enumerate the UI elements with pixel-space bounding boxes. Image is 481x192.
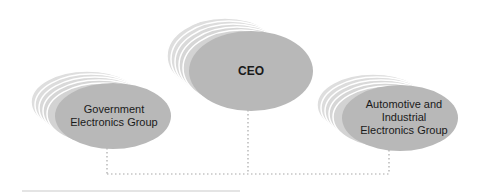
bottom-divider: [22, 190, 240, 192]
auto-label: Automotive and Industrial Electronics Gr…: [344, 98, 464, 138]
gov-label: Government Electronics Group: [58, 103, 170, 129]
org-chart-diagram: [0, 0, 481, 192]
gov-label-line-2: Electronics Group: [58, 116, 170, 129]
ceo-label: CEO: [201, 64, 301, 78]
gov-label-line-1: Government: [58, 103, 170, 116]
auto-label-line-1: Automotive and: [344, 98, 464, 111]
auto-label-line-2: Industrial: [344, 111, 464, 124]
auto-label-line-3: Electronics Group: [344, 124, 464, 137]
ceo-label-line: CEO: [201, 64, 301, 78]
